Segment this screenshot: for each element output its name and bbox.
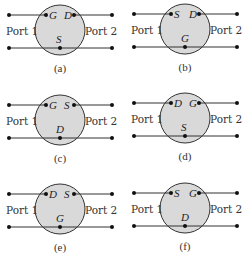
port2-top-terminal-dot xyxy=(235,101,239,105)
port1-top-terminal-dot xyxy=(132,12,136,16)
bottom-node-dot xyxy=(58,225,62,229)
port1-bottom-terminal-dot xyxy=(7,46,11,50)
top-left-terminal-label: D xyxy=(173,97,182,109)
port1-bottom-terminal-dot xyxy=(132,134,136,138)
port-1-label: Port 1 xyxy=(6,204,38,216)
top-left-node-dot xyxy=(44,192,48,196)
port2-bottom-terminal-dot xyxy=(110,136,114,140)
port2-bottom-terminal-dot xyxy=(235,45,239,49)
port1-top-terminal-dot xyxy=(7,13,11,17)
top-right-node-dot xyxy=(197,191,201,195)
port2-top-terminal-dot xyxy=(110,13,114,17)
port2-top-terminal-dot xyxy=(235,12,239,16)
top-right-terminal-label: S xyxy=(64,188,70,200)
port1-bottom-terminal-dot xyxy=(132,224,136,228)
port1-bottom-terminal-dot xyxy=(7,136,11,140)
port-2-label: Port 2 xyxy=(85,115,117,127)
top-left-node-dot xyxy=(169,12,173,16)
port1-top-terminal-dot xyxy=(132,101,136,105)
bottom-node-dot xyxy=(58,46,62,50)
port-2-label: Port 2 xyxy=(85,25,117,37)
panel-b: SDGPort 1Port 2(b) xyxy=(131,4,242,74)
port2-bottom-terminal-dot xyxy=(110,225,114,229)
panel-f: SGDPort 1Port 2(f) xyxy=(131,183,242,253)
bottom-terminal-label: D xyxy=(180,211,189,223)
port1-top-terminal-dot xyxy=(132,191,136,195)
port-1-label: Port 1 xyxy=(6,115,38,127)
top-right-node-dot xyxy=(197,12,201,16)
panel-e: DSGPort 1Port 2(e) xyxy=(6,184,117,254)
top-left-node-dot xyxy=(44,13,48,17)
bottom-node-dot xyxy=(58,136,62,140)
port2-bottom-terminal-dot xyxy=(235,134,239,138)
top-right-node-dot xyxy=(72,13,76,17)
port-1-label: Port 1 xyxy=(131,203,163,215)
port-2-label: Port 2 xyxy=(210,203,242,215)
top-right-node-dot xyxy=(197,101,201,105)
top-left-node-dot xyxy=(44,103,48,107)
bottom-terminal-label: S xyxy=(181,121,187,133)
port1-top-terminal-dot xyxy=(7,192,11,196)
panel-c: GSDPort 1Port 2(c) xyxy=(6,95,117,165)
panel-caption: (f) xyxy=(180,240,191,253)
panel-caption: (a) xyxy=(54,62,67,75)
port-1-label: Port 1 xyxy=(6,25,38,37)
port1-bottom-terminal-dot xyxy=(7,225,11,229)
bottom-terminal-label: S xyxy=(56,33,62,45)
port2-top-terminal-dot xyxy=(110,192,114,196)
top-right-node-dot xyxy=(72,192,76,196)
top-left-terminal-label: G xyxy=(49,99,57,111)
port2-bottom-terminal-dot xyxy=(110,46,114,50)
bottom-node-dot xyxy=(183,134,187,138)
bottom-terminal-label: D xyxy=(55,123,64,135)
top-right-node-dot xyxy=(72,103,76,107)
port-2-label: Port 2 xyxy=(210,24,242,36)
port1-top-terminal-dot xyxy=(7,103,11,107)
top-right-terminal-label: D xyxy=(188,8,197,20)
bottom-terminal-label: G xyxy=(181,32,189,44)
top-left-terminal-label: G xyxy=(49,9,57,21)
top-right-terminal-label: S xyxy=(64,99,70,111)
port1-bottom-terminal-dot xyxy=(132,45,136,49)
panel-caption: (e) xyxy=(54,241,67,254)
top-right-terminal-label: G xyxy=(189,187,197,199)
top-left-node-dot xyxy=(169,101,173,105)
port2-bottom-terminal-dot xyxy=(235,224,239,228)
panel-d: DGSPort 1Port 2(d) xyxy=(131,93,242,163)
panel-caption: (d) xyxy=(179,150,192,163)
top-left-terminal-label: S xyxy=(174,8,180,20)
port-2-label: Port 2 xyxy=(85,204,117,216)
panel-caption: (b) xyxy=(179,61,192,74)
panel-a: GDSPort 1Port 2(a) xyxy=(6,5,117,75)
top-right-terminal-label: D xyxy=(63,9,72,21)
bottom-node-dot xyxy=(183,224,187,228)
two-port-configuration-diagram: GDSPort 1Port 2(a)SDGPort 1Port 2(b)GSDP… xyxy=(0,0,251,260)
bottom-node-dot xyxy=(183,45,187,49)
bottom-terminal-label: G xyxy=(56,212,64,224)
port2-top-terminal-dot xyxy=(235,191,239,195)
top-left-terminal-label: S xyxy=(174,187,180,199)
port2-top-terminal-dot xyxy=(110,103,114,107)
top-right-terminal-label: G xyxy=(189,97,197,109)
panel-caption: (c) xyxy=(54,152,67,165)
top-left-node-dot xyxy=(169,191,173,195)
top-left-terminal-label: D xyxy=(48,188,57,200)
port-1-label: Port 1 xyxy=(131,113,163,125)
port-2-label: Port 2 xyxy=(210,113,242,125)
port-1-label: Port 1 xyxy=(131,24,163,36)
